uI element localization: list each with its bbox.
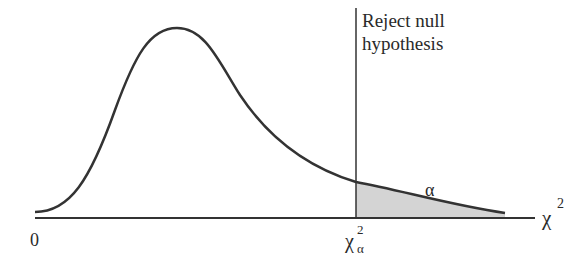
- density-curve: [35, 28, 505, 213]
- region-label-line2: hypothesis: [362, 33, 443, 54]
- region-label-line1: Reject null: [362, 10, 445, 31]
- x-axis-label-sup: 2: [557, 196, 564, 211]
- chart-canvas: Reject null hypothesis α 0 χ 2 α χ 2: [0, 0, 585, 257]
- alpha-label: α: [425, 180, 435, 200]
- origin-label: 0: [30, 230, 39, 250]
- critical-value-label-sub: α: [357, 241, 364, 256]
- critical-value-label-main: χ: [344, 230, 354, 253]
- x-axis-label-main: χ: [541, 206, 552, 230]
- critical-value-label-sup: 2: [357, 222, 364, 237]
- chi-square-figure: Reject null hypothesis α 0 χ 2 α χ 2: [0, 0, 585, 257]
